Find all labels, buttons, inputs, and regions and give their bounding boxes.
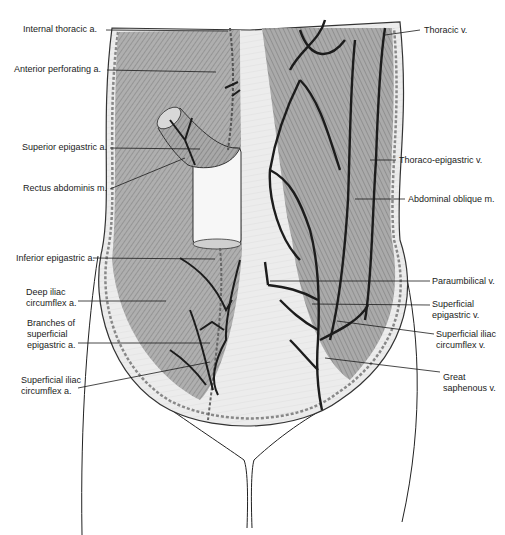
label-paraumbilical-v: Paraumbilical v.	[432, 276, 495, 287]
label-thoracic-v: Thoracic v.	[424, 25, 467, 36]
label-rectus-abdominis-m: Rectus abdominis m.	[23, 183, 107, 194]
label-branches-superficial-epigastric-a: Branches of superficial epigastric a.	[27, 318, 76, 351]
label-thoraco-epigastric-v: Thoraco-epigastric v.	[399, 155, 482, 166]
anatomy-illustration	[0, 0, 505, 535]
label-superficial-iliac-circumflex-v: Superficial iliac circumflex v.	[436, 329, 496, 351]
label-abdominal-oblique-m: Abdominal oblique m.	[408, 194, 495, 205]
label-superficial-iliac-circumflex-a: Superficial iliac circumflex a.	[21, 375, 81, 397]
label-superior-epigastric-a: Superior epigastric a.	[22, 142, 107, 153]
body-outline-left	[82, 256, 98, 535]
label-internal-thoracic-a: Internal thoracic a.	[23, 24, 97, 35]
label-superficial-epigastric-v: Superficial epigastric v.	[432, 299, 479, 321]
label-great-saphenous-v: Great saphenous v.	[443, 372, 496, 394]
label-inferior-epigastric-a: Inferior epigastric a.	[16, 253, 95, 264]
label-deep-iliac-circumflex-a: Deep iliac circumflex a.	[26, 287, 77, 309]
label-anterior-perforating-a: Anterior perforating a.	[14, 64, 101, 75]
